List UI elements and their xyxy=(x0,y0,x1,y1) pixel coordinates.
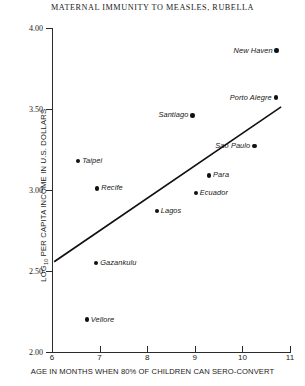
data-point xyxy=(95,186,99,190)
data-point-label: Santiago xyxy=(158,110,188,119)
data-point xyxy=(194,191,198,195)
data-point xyxy=(76,159,80,163)
data-point xyxy=(155,209,159,213)
data-point xyxy=(85,317,89,321)
data-point-label: Porto Alegre xyxy=(230,93,272,102)
data-point-label: Recife xyxy=(101,183,123,192)
data-point-label: Sao Paulo xyxy=(215,141,250,150)
data-point-label: New Haven xyxy=(234,46,273,55)
data-point xyxy=(274,48,278,52)
data-point-label: Taipei xyxy=(82,156,102,165)
data-point-label: Lagos xyxy=(161,206,182,215)
data-point xyxy=(252,144,256,148)
data-point xyxy=(207,173,211,177)
data-point-label: Gazankulu xyxy=(100,258,136,267)
plot-area: New HavenPorto AlegreSantiagoSao PauloTa… xyxy=(0,0,305,386)
data-point xyxy=(190,113,194,117)
data-point-label: Para xyxy=(213,170,229,179)
data-point xyxy=(274,95,278,99)
scatter-chart: MATERNAL IMMUNITY TO MEASLES, RUBELLA 2.… xyxy=(0,0,305,386)
data-point xyxy=(94,261,98,265)
data-point-label: Vellore xyxy=(91,315,114,324)
data-point-label: Ecuador xyxy=(200,188,228,197)
